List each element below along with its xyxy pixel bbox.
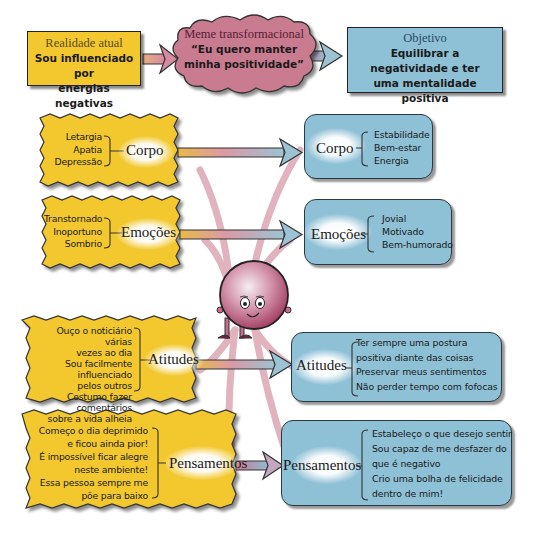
atitudes-negatives: Ouço o noticiário várias vezes ao dia So…	[30, 325, 132, 424]
transformational-meme: Meme transformacional “Eu quero manter m…	[180, 27, 308, 72]
meme-line-1: “Eu quero manter	[180, 42, 308, 57]
current-reality-line-2: energias negativas	[28, 81, 140, 111]
positive-item: Estabeleço o que desejo sentir	[372, 426, 512, 441]
pensamentos-negatives: Começo o dia deprimido e ficou ainda pio…	[30, 424, 148, 502]
row-arrow-atitudes	[196, 351, 292, 378]
goal-line-2: negatividade e ter	[348, 61, 502, 76]
negative-item: e ficou ainda pior!	[30, 437, 148, 450]
current-reality-line-1: Sou influenciado por	[28, 51, 140, 81]
positive-item: positiva diante das coisas	[356, 351, 498, 366]
smiling-balloon-character-icon	[217, 261, 291, 338]
negative-item: Inoportuno	[44, 226, 102, 239]
negative-item: Sou facilmente influenciado	[30, 358, 132, 380]
emocoes-label-left: Emoções	[121, 224, 176, 241]
negative-item: vezes ao dia	[30, 347, 132, 358]
negative-item: Começo o dia deprimido	[30, 424, 148, 437]
positive-item: que é negativo	[372, 456, 512, 471]
negative-item: Transtornado	[44, 213, 102, 226]
positive-item: Crio uma bolha de felicidade	[372, 471, 512, 486]
negative-item: sobre a vida alheia	[30, 413, 132, 424]
positive-item: Sou capaz de me desfazer do	[372, 441, 512, 456]
pensamentos-label-right: Pensamentos	[283, 457, 361, 474]
pensamentos-label-left: Pensamentos	[169, 455, 247, 472]
bracket-emocoes-right	[362, 214, 382, 254]
positive-item: Jovial	[382, 212, 453, 225]
atitudes-label-right: Atitudes	[296, 357, 347, 374]
negative-item: Ouço o noticiário várias	[30, 325, 132, 347]
goal-line-3: uma mentalidade positiva	[348, 76, 502, 106]
emocoes-label-right: Emoções	[311, 226, 366, 243]
emocoes-negatives: Transtornado Inoportuno Sombrio	[44, 213, 102, 251]
meme-line-2: minha positividade”	[180, 57, 308, 72]
row-arrow-corpo	[178, 139, 302, 166]
corpo-label-right: Corpo	[316, 140, 354, 157]
negative-item: pelos outros	[30, 380, 132, 391]
goal-title: Objetivo	[348, 31, 502, 46]
goal-box: Objetivo Equilibrar a negatividade e ter…	[347, 27, 503, 93]
positive-item: dentro de mim!	[372, 486, 512, 501]
corpo-positives: Estabilidade Bem-estar Energia	[374, 128, 430, 167]
positive-item: Ter sempre uma postura	[356, 336, 498, 351]
row-arrow-emocoes	[180, 221, 302, 248]
current-reality-title: Realidade atual	[28, 36, 140, 51]
positive-item: Preservar meus sentimentos	[356, 365, 498, 380]
current-reality-box: Realidade atual Sou influenciado por ene…	[27, 31, 141, 86]
negative-item: Apatia	[50, 144, 102, 157]
positive-item: Bem-estar	[374, 141, 430, 154]
atitudes-label-left: Atitudes	[148, 351, 199, 368]
negative-item: Depressão	[50, 156, 102, 169]
goal-line-1: Equilibrar a	[348, 46, 502, 61]
corpo-negatives: Letargia Apatia Depressão	[50, 131, 102, 169]
emocoes-positives: Jovial Motivado Bem-humorado	[382, 212, 453, 251]
positive-item: Energia	[374, 154, 430, 167]
negative-item: Letargia	[50, 131, 102, 144]
positive-item: Não perder tempo com fofocas	[356, 380, 498, 395]
negative-item: É impossível ficar alegre	[30, 450, 148, 463]
pensamentos-positives: Estabeleço o que desejo sentir Sou capaz…	[372, 426, 512, 501]
bracket-corpo-right	[356, 130, 376, 168]
positive-item: Motivado	[382, 225, 453, 238]
positive-item: Bem-humorado	[382, 238, 453, 251]
positive-item: Estabilidade	[374, 128, 430, 141]
negative-item: neste ambiente!	[30, 463, 148, 476]
corpo-label-left: Corpo	[126, 142, 164, 159]
negative-item: Costumo fazer comentários	[30, 391, 132, 413]
negative-item: Sombrio	[44, 238, 102, 251]
meme-title: Meme transformacional	[180, 27, 308, 42]
negative-item: põe para baixo	[30, 489, 148, 502]
atitudes-positives: Ter sempre uma postura positiva diante d…	[356, 336, 498, 394]
negative-item: Essa pessoa sempre me	[30, 476, 148, 489]
